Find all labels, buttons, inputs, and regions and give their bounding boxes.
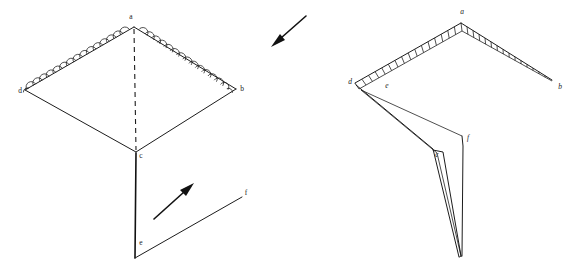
edge-a-b-inner — [462, 31, 552, 81]
vertex-label-d-left: d — [18, 86, 22, 95]
edge-c-e — [135, 153, 136, 258]
edge-a-b — [134, 27, 236, 89]
scallop-band-a-b — [139, 28, 233, 93]
vertex-label-e-right: e — [385, 81, 389, 90]
right-panel-lower-limb — [356, 85, 463, 257]
edge-a-d-inner — [359, 31, 462, 89]
vertex-label-a-left: a — [129, 12, 133, 21]
fold-direction-arrow-lower — [154, 183, 194, 219]
edge-e-f-right — [361, 90, 462, 136]
right-panel-top-outline — [355, 23, 552, 89]
vertex-label-b-right: b — [558, 82, 562, 91]
edge-e-f — [135, 197, 242, 258]
diagram-canvas: a d b c e f — [0, 0, 582, 275]
vertex-label-f-left: f — [245, 188, 248, 197]
vertex-label-b-left: b — [240, 84, 244, 93]
right-panel: a d e b c f — [348, 7, 562, 257]
vertex-label-d-right: d — [348, 77, 352, 86]
left-panel: a d b c e f — [18, 12, 248, 258]
edge-d-c — [25, 90, 136, 152]
vertex-label-c-left: c — [139, 151, 143, 160]
axis-dashed-a-c — [134, 29, 136, 150]
vertex-label-f-right: f — [467, 133, 470, 142]
edge-b-c — [136, 89, 236, 152]
limb-inner-edge — [361, 90, 461, 256]
edge-a-b-outer — [461, 23, 552, 80]
rib-band-a-d — [362, 27, 456, 85]
edge-f-tip — [462, 136, 463, 256]
vertex-label-a-right: a — [460, 7, 464, 16]
limb-tip — [459, 256, 462, 257]
fold-direction-arrow-upper — [271, 16, 306, 47]
vertex-label-e-left: e — [139, 238, 143, 247]
edge-a-d-outer — [355, 23, 461, 83]
cap-a — [461, 23, 462, 31]
left-panel-outline — [25, 27, 236, 152]
left-panel-lower-limb — [135, 153, 242, 258]
rib-band-a-b — [467, 27, 545, 77]
edge-a-d — [25, 27, 134, 90]
